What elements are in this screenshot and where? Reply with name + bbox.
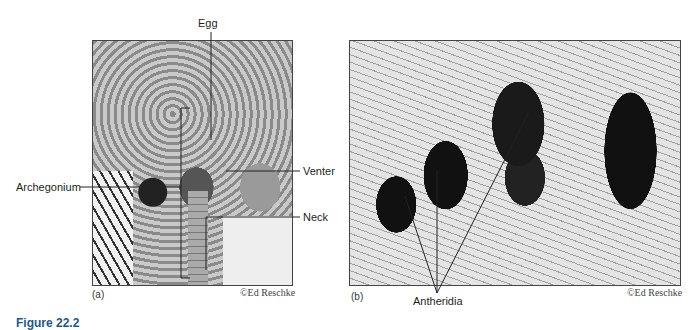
panel-b-letter: (b) [351,291,363,302]
panel-b-credit: ©Ed Reschke [627,287,682,298]
label-venter: Venter [303,165,335,177]
panel-a-letter: (a) [92,289,104,300]
label-egg: Egg [198,17,218,29]
label-archegonium: Archegonium [16,181,81,193]
panel-a-credit: ©Ed Reschke [240,287,295,298]
label-antheridia: Antheridia [413,295,463,307]
figure-caption: Figure 22.2 [16,316,79,330]
label-neck: Neck [303,211,328,223]
